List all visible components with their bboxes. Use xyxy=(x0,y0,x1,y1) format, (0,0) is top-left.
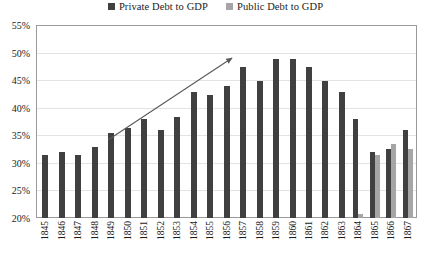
x-axis-tick-label: 1866 xyxy=(386,221,396,240)
x-axis-tick: 1860 xyxy=(284,220,300,262)
x-axis-labels: 1845184618471848184918501851185218531854… xyxy=(37,220,416,262)
bar-group-1854 xyxy=(185,26,201,218)
bar-private-1855 xyxy=(207,95,213,218)
x-axis-tick: 1858 xyxy=(251,220,267,262)
bar-group-1845 xyxy=(37,26,53,218)
x-axis-tick-label: 1860 xyxy=(288,221,298,240)
x-axis-tick-label: 1856 xyxy=(222,221,232,240)
bar-private-1863 xyxy=(339,92,345,218)
bar-group-1856 xyxy=(218,26,234,218)
x-axis-tick-label: 1861 xyxy=(304,221,314,240)
x-axis-tick: 1856 xyxy=(218,220,234,262)
legend-label-private-debt: Private Debt to GDP xyxy=(119,1,208,12)
x-axis-tick: 1853 xyxy=(169,220,185,262)
square-marker-icon xyxy=(108,3,115,10)
bar-group-1857 xyxy=(235,26,251,218)
bar-group-1863 xyxy=(334,26,350,218)
x-axis-tick: 1847 xyxy=(70,220,86,262)
bar-private-1864 xyxy=(353,119,358,218)
x-axis-tick: 1851 xyxy=(136,220,152,262)
bar-group-1846 xyxy=(53,26,69,218)
x-axis-tick-label: 1845 xyxy=(40,221,50,240)
bar-private-1846 xyxy=(59,152,65,218)
bar-private-1857 xyxy=(240,67,246,218)
y-axis-tick-label: 45% xyxy=(12,75,30,86)
x-axis-tick: 1855 xyxy=(202,220,218,262)
bar-private-1850 xyxy=(125,128,131,219)
bar-group-1850 xyxy=(119,26,135,218)
y-axis-tick-label: 20% xyxy=(12,213,30,224)
y-axis-labels: 20%25%30%35%40%45%50%55% xyxy=(0,25,34,218)
square-marker-icon xyxy=(226,3,233,10)
x-axis-tick: 1845 xyxy=(37,220,53,262)
bar-private-1861 xyxy=(306,67,312,218)
legend-item-public-debt: Public Debt to GDP xyxy=(226,1,323,12)
y-axis-tick-label: 50% xyxy=(12,47,30,58)
debt-to-gdp-bar-chart: Private Debt to GDP Public Debt to GDP 2… xyxy=(0,0,431,263)
x-axis-tick: 1848 xyxy=(86,220,102,262)
bar-group-1867 xyxy=(400,26,416,218)
x-axis-tick-label: 1857 xyxy=(238,221,248,240)
bar-private-1849 xyxy=(108,133,114,218)
x-axis-tick-label: 1847 xyxy=(73,221,83,240)
bar-private-1852 xyxy=(158,130,164,218)
bar-private-1853 xyxy=(174,117,180,218)
bar-group-1849 xyxy=(103,26,119,218)
x-axis-tick: 1852 xyxy=(152,220,168,262)
x-axis-tick-label: 1859 xyxy=(271,221,281,240)
x-axis-tick-label: 1867 xyxy=(403,221,413,240)
x-axis-tick-label: 1848 xyxy=(90,221,100,240)
x-axis-tick-label: 1846 xyxy=(57,221,67,240)
bar-group-1852 xyxy=(152,26,168,218)
x-axis-tick-label: 1865 xyxy=(370,221,380,240)
bar-public-1866 xyxy=(391,144,396,218)
x-axis-tick: 1861 xyxy=(301,220,317,262)
bar-group-1858 xyxy=(251,26,267,218)
x-axis-tick-label: 1854 xyxy=(189,221,199,240)
bar-group-1851 xyxy=(136,26,152,218)
x-axis-tick-label: 1855 xyxy=(205,221,215,240)
x-axis-tick-label: 1864 xyxy=(353,221,363,240)
bar-private-1860 xyxy=(290,59,296,218)
bar-group-1865 xyxy=(367,26,383,218)
x-axis-tick: 1863 xyxy=(334,220,350,262)
bar-group-1860 xyxy=(284,26,300,218)
x-axis-tick: 1857 xyxy=(235,220,251,262)
bar-private-1851 xyxy=(141,119,147,218)
bar-private-1862 xyxy=(322,81,328,218)
bar-group-1847 xyxy=(70,26,86,218)
legend-item-private-debt: Private Debt to GDP xyxy=(108,1,208,12)
bar-group-1848 xyxy=(86,26,102,218)
bar-public-1865 xyxy=(375,155,380,218)
x-axis-tick: 1864 xyxy=(350,220,366,262)
chart-legend: Private Debt to GDP Public Debt to GDP xyxy=(0,1,431,12)
x-axis-tick: 1862 xyxy=(317,220,333,262)
x-axis-tick-label: 1851 xyxy=(139,221,149,240)
x-axis-tick-label: 1849 xyxy=(106,221,116,240)
x-axis-tick-label: 1852 xyxy=(156,221,166,240)
bar-group-1864 xyxy=(350,26,366,218)
x-axis-tick-label: 1853 xyxy=(172,221,182,240)
x-axis-tick-label: 1863 xyxy=(337,221,347,240)
y-axis-tick-label: 40% xyxy=(12,102,30,113)
bar-group-1866 xyxy=(383,26,399,218)
y-axis-tick-label: 30% xyxy=(12,157,30,168)
x-axis-tick: 1849 xyxy=(103,220,119,262)
bar-private-1854 xyxy=(191,92,197,218)
x-axis-tick-label: 1862 xyxy=(320,221,330,240)
y-axis-tick-label: 55% xyxy=(12,20,30,31)
bar-private-1859 xyxy=(273,59,279,218)
bar-group-1862 xyxy=(317,26,333,218)
bar-group-1853 xyxy=(169,26,185,218)
x-axis-tick-label: 1858 xyxy=(255,221,265,240)
x-axis-tick: 1854 xyxy=(185,220,201,262)
bar-private-1856 xyxy=(224,86,230,218)
x-axis-tick: 1859 xyxy=(268,220,284,262)
x-axis-tick: 1867 xyxy=(400,220,416,262)
x-axis-tick: 1866 xyxy=(383,220,399,262)
x-axis-tick: 1865 xyxy=(367,220,383,262)
bar-group-1861 xyxy=(301,26,317,218)
y-axis-tick-label: 25% xyxy=(12,185,30,196)
bar-public-1864 xyxy=(358,214,363,218)
x-axis-tick-label: 1850 xyxy=(123,221,133,240)
